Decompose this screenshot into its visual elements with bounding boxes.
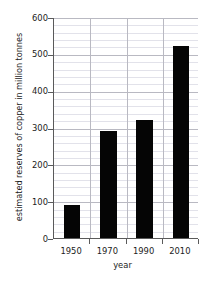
x-axis-tick-label: 2010 — [160, 246, 200, 256]
y-axis-tick-label: 600 — [18, 14, 48, 23]
bar-chart: estimated reserves of copper in million … — [0, 0, 205, 285]
x-axis-tick — [198, 239, 199, 244]
bar — [100, 131, 117, 238]
x-axis-tick-label: 1950 — [51, 246, 91, 256]
x-axis-tick-label: 1990 — [124, 246, 164, 256]
y-axis-tick-label: 200 — [18, 161, 48, 170]
plot-area — [53, 18, 198, 239]
x-axis-tick — [89, 239, 90, 244]
x-axis-tick — [126, 239, 127, 244]
x-axis-tick — [162, 239, 163, 244]
x-axis-title: year — [50, 260, 195, 270]
bars-layer — [54, 18, 198, 238]
x-axis-tick-label: 1970 — [87, 246, 127, 256]
bar — [136, 120, 153, 238]
y-axis-tick-label: 300 — [18, 124, 48, 133]
y-axis-tick — [48, 239, 53, 240]
y-axis-tick-label: 0 — [18, 235, 48, 244]
y-axis-tick-label: 100 — [18, 198, 48, 207]
bar — [173, 46, 190, 238]
y-axis-tick-label: 400 — [18, 87, 48, 96]
y-axis-tick-label: 500 — [18, 50, 48, 59]
bar — [64, 205, 81, 238]
